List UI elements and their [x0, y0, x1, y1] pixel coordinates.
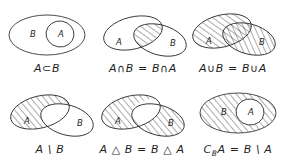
- region-label-b: B: [170, 38, 176, 48]
- complement-tail: A = B \ A: [217, 143, 273, 156]
- region-label-b: B: [221, 107, 227, 117]
- complement-lead: C: [204, 143, 212, 156]
- panel-caption-difference: A \ B: [35, 143, 65, 156]
- panel-symmetric-difference: A B A △ B = B △ A: [95, 85, 200, 156]
- region-label-a: A: [23, 116, 30, 126]
- region-label-b: B: [259, 37, 265, 47]
- panel-complement: B A CBA = B \ A: [195, 88, 285, 158]
- region-label-b: B: [77, 118, 83, 128]
- panel-caption-union: A∪B = B∪A: [198, 62, 267, 75]
- panel-caption-intersection: A∩B = B∩A: [108, 62, 177, 75]
- panel-difference: A B A \ B: [0, 85, 110, 156]
- panel-intersection: A B A∩B = B∩A: [100, 10, 190, 75]
- region-label-b: B: [30, 29, 36, 39]
- panel-caption-subset: A⊂B: [33, 62, 60, 75]
- region-label-a: A: [205, 36, 212, 46]
- region-label-b: B: [168, 118, 174, 128]
- panel-caption-symmetric-difference: A △ B = B △ A: [98, 143, 184, 156]
- venn-diagram-figure: B A A⊂B A B A∩B = B∩A A B A∪B = B∪A A: [0, 0, 289, 168]
- region-label-a: A: [57, 29, 64, 39]
- region-label-a: A: [115, 37, 122, 47]
- region-label-a: A: [247, 107, 254, 117]
- panel-union: A B A∪B = B∪A: [189, 8, 279, 75]
- shaded-union: [189, 8, 279, 61]
- shaded-symmetric-difference: [95, 85, 200, 145]
- panel-subset: B A A⊂B: [9, 15, 85, 75]
- panel-caption-complement: CBA = B \ A: [204, 143, 273, 158]
- region-label-a: A: [114, 116, 121, 126]
- shaded-a-minus-b: [0, 85, 110, 145]
